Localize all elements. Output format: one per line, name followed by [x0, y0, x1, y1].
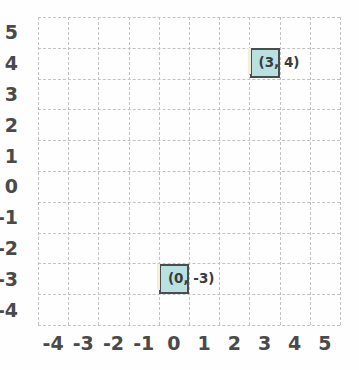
point-coordinate-label: (3, 4): [259, 56, 300, 70]
y-tick-label: 0: [0, 177, 18, 196]
x-tick-label: 1: [187, 334, 221, 353]
y-tick-label: 1: [0, 146, 18, 165]
x-tick-label: 5: [308, 334, 342, 353]
gridline-horizontal: [38, 79, 340, 80]
y-tick-label: 5: [0, 23, 18, 42]
x-tick-label: 4: [278, 334, 312, 353]
y-tick-label: -3: [0, 269, 18, 288]
y-tick-label: -4: [0, 300, 18, 319]
x-tick-label: -2: [97, 334, 131, 353]
coordinate-plane-chart: 543210-1-2-3-4 -4-3-2-1012345 (3, 4)(0, …: [0, 0, 359, 370]
gridline-horizontal: [38, 140, 340, 141]
gridline-horizontal: [38, 202, 340, 203]
y-tick-label: -2: [0, 239, 18, 258]
x-tick-label: 2: [217, 334, 251, 353]
gridline-horizontal: [38, 171, 340, 172]
gridline-horizontal: [38, 294, 340, 295]
y-tick-label: -1: [0, 208, 18, 227]
y-tick-label: 3: [0, 85, 18, 104]
gridline-horizontal: [38, 17, 340, 18]
gridline-horizontal: [38, 109, 340, 110]
y-tick-label: 4: [0, 54, 18, 73]
y-tick-label: 2: [0, 115, 18, 134]
gridline-horizontal: [38, 263, 340, 264]
gridline-horizontal: [38, 48, 340, 49]
point-coordinate-label: (0, -3): [168, 272, 215, 286]
gridline-horizontal: [38, 325, 340, 326]
x-tick-label: -3: [66, 334, 100, 353]
x-tick-label: 0: [157, 334, 191, 353]
x-tick-label: -1: [127, 334, 161, 353]
x-tick-label: 3: [248, 334, 282, 353]
gridline-vertical: [340, 17, 341, 325]
x-tick-label: -4: [36, 334, 70, 353]
gridline-horizontal: [38, 233, 340, 234]
